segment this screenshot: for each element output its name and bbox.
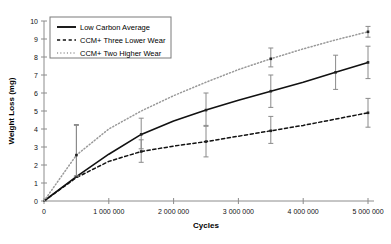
data-point-marker: [367, 31, 370, 34]
legend-label-0: Low Carbon Average: [80, 23, 150, 32]
legend-label-1: CCM+ Three Lower Wear: [80, 36, 166, 45]
y-axis-title: Weight Loss (mg): [7, 77, 16, 144]
x-tick-label: 5 000 000: [352, 208, 383, 215]
x-tick-label: 0: [42, 208, 46, 215]
y-tick-label: 4: [34, 126, 38, 133]
data-point-marker: [367, 112, 370, 115]
y-tick-label: 2: [34, 162, 38, 169]
y-tick-label: 3: [34, 144, 38, 151]
data-point-marker: [270, 130, 273, 133]
y-tick-label: 5: [34, 108, 38, 115]
data-point-marker: [75, 154, 78, 157]
x-axis-title: Cycles: [193, 221, 219, 230]
x-tick-label: 1 000 000: [93, 208, 124, 215]
data-point-marker: [205, 109, 208, 112]
data-point-marker: [140, 133, 143, 136]
legend-layer: Low Carbon AverageCCM+ Three Lower WearC…: [50, 17, 171, 58]
legend-label-2: CCM+ Two Higher Wear: [80, 49, 162, 58]
x-tick-label: 4 000 000: [288, 208, 319, 215]
data-point-marker: [270, 58, 273, 61]
data-point-marker: [205, 140, 208, 143]
chart-canvas: 01234567891001 000 0002 000 0003 000 000…: [0, 0, 391, 244]
data-point-marker: [270, 90, 273, 93]
y-tick-label: 7: [34, 72, 38, 79]
y-tick-label: 1: [34, 180, 38, 187]
y-tick-label: 8: [34, 54, 38, 61]
error-bar: [268, 48, 273, 67]
weight-loss-chart: 01234567891001 000 0002 000 0003 000 000…: [0, 0, 391, 244]
data-point-marker: [334, 71, 337, 74]
y-tick-label: 10: [30, 18, 38, 25]
data-point-marker: [140, 150, 143, 153]
y-tick-label: 0: [34, 198, 38, 205]
x-tick-label: 2 000 000: [158, 208, 189, 215]
y-tick-label: 9: [34, 36, 38, 43]
x-tick-label: 3 000 000: [223, 208, 254, 215]
y-tick-label: 6: [34, 90, 38, 97]
data-point-marker: [367, 61, 370, 64]
error-bar: [74, 125, 79, 176]
